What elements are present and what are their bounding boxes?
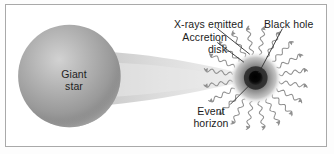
xray-arrowhead [298,54,302,58]
label-event-horizon: Event horizon [180,106,242,129]
xray-ray [246,101,252,129]
label-xrays-emitted: X-rays emitted [174,19,243,31]
xray-ray [209,88,235,102]
black-hole-core [229,51,282,104]
diagram-frame: X-rays emitted Black hole Accretion disk… [5,4,327,147]
xray-arrowhead [232,31,236,35]
xray-arrowhead [276,120,280,124]
xray-ray [258,101,265,129]
xray-ray [246,26,253,54]
xray-ray [277,89,302,103]
xray-ray [232,31,246,57]
xray-ray [259,27,265,55]
label-black-hole: Black hole [264,19,313,31]
xray-ray [277,54,303,68]
xray-ray [266,99,280,125]
label-accretion-disk: Accretion disk [161,32,227,55]
diagram-stage: X-rays emitted Black hole Accretion disk… [0,0,334,154]
xray-ray [279,81,307,87]
xray-ray [210,53,235,67]
xray-arrowhead [209,98,213,102]
label-giant-star: Giant star [43,69,105,92]
xray-ray [279,69,307,76]
